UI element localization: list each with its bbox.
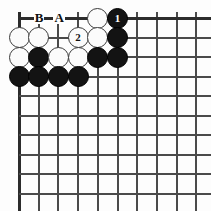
stone-white [87,8,108,29]
grid-line-horizontal [19,134,211,136]
grid-line-vertical [176,12,178,211]
stone-black [28,47,49,68]
stone-black [28,66,49,87]
go-board-diagram: 12 BA [0,0,211,211]
grid-line-vertical [136,12,138,211]
stone-white [9,27,30,48]
grid-line-horizontal [19,173,211,175]
grid-line-horizontal [19,193,211,195]
stone-black [48,66,69,87]
grid-line-horizontal [19,95,211,97]
stone-black [68,66,89,87]
move-stone-black-1: 1 [107,8,128,29]
point-marker-b: B [34,11,45,24]
grid-line-vertical [156,12,158,211]
move-number-label: 2 [75,32,81,43]
grid-line-horizontal [19,115,211,117]
stone-black [107,27,128,48]
stone-black [107,47,128,68]
stone-black [87,47,108,68]
grid-line-vertical [195,12,197,211]
stone-white [9,47,30,68]
point-marker-a: A [53,11,64,24]
stone-black [9,66,30,87]
stone-white [68,47,89,68]
grid-line-horizontal [19,154,211,156]
grid-line-vertical [57,12,59,211]
stone-white [28,27,49,48]
stone-white [87,27,108,48]
move-number-label: 1 [115,12,121,23]
move-stone-white-2: 2 [68,27,89,48]
stone-white [48,47,69,68]
